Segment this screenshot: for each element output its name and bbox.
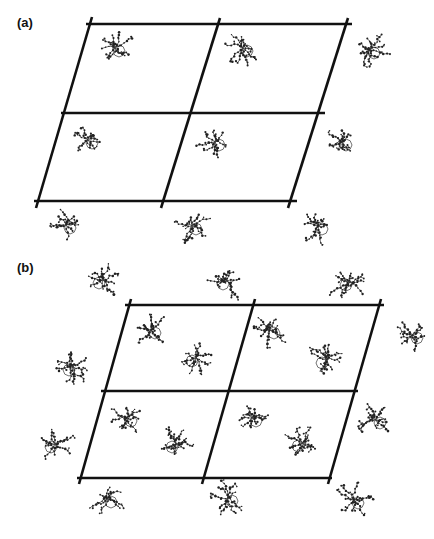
molecule-b-1 [206,270,240,301]
molecule-b-13 [161,426,194,455]
molecule-a-1 [224,34,257,67]
crystal-packing-figure [0,0,434,539]
molecule-a-5 [328,129,352,151]
molecule-a-0 [101,31,133,60]
molecule-b-2 [329,271,365,298]
molecule-b-5 [397,321,425,352]
molecule-b-14 [284,426,316,455]
molecule-b-17 [336,481,374,516]
molecule-a-3 [73,127,100,152]
molecule-b-11 [357,403,389,433]
molecule-a-2 [358,33,391,67]
molecule-b-10 [238,405,269,428]
molecule-a-4 [195,130,227,159]
molecule-b-8 [309,344,343,375]
molecule-b-4 [253,317,287,349]
molecule-a-6 [49,209,79,241]
panel-b [41,263,426,516]
molecule-a-8 [304,213,328,246]
molecule-b-7 [181,342,212,375]
molecule-a-7 [174,214,211,245]
panel-a [34,17,391,246]
molecule-b-3 [137,313,165,343]
molecule-b-9 [111,407,141,433]
molecule-b-0 [88,263,119,296]
molecule-b-15 [89,487,125,515]
molecule-b-16 [210,479,243,515]
molecule-b-6 [55,351,87,385]
molecule-b-12 [41,429,76,460]
